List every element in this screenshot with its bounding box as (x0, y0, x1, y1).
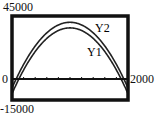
plot-area: Y2 Y1 (0, 0, 158, 117)
curve-y1 (12, 28, 128, 94)
series-label-y2: Y2 (95, 21, 110, 35)
series-label-y1: Y1 (87, 45, 102, 59)
curves (12, 22, 128, 93)
